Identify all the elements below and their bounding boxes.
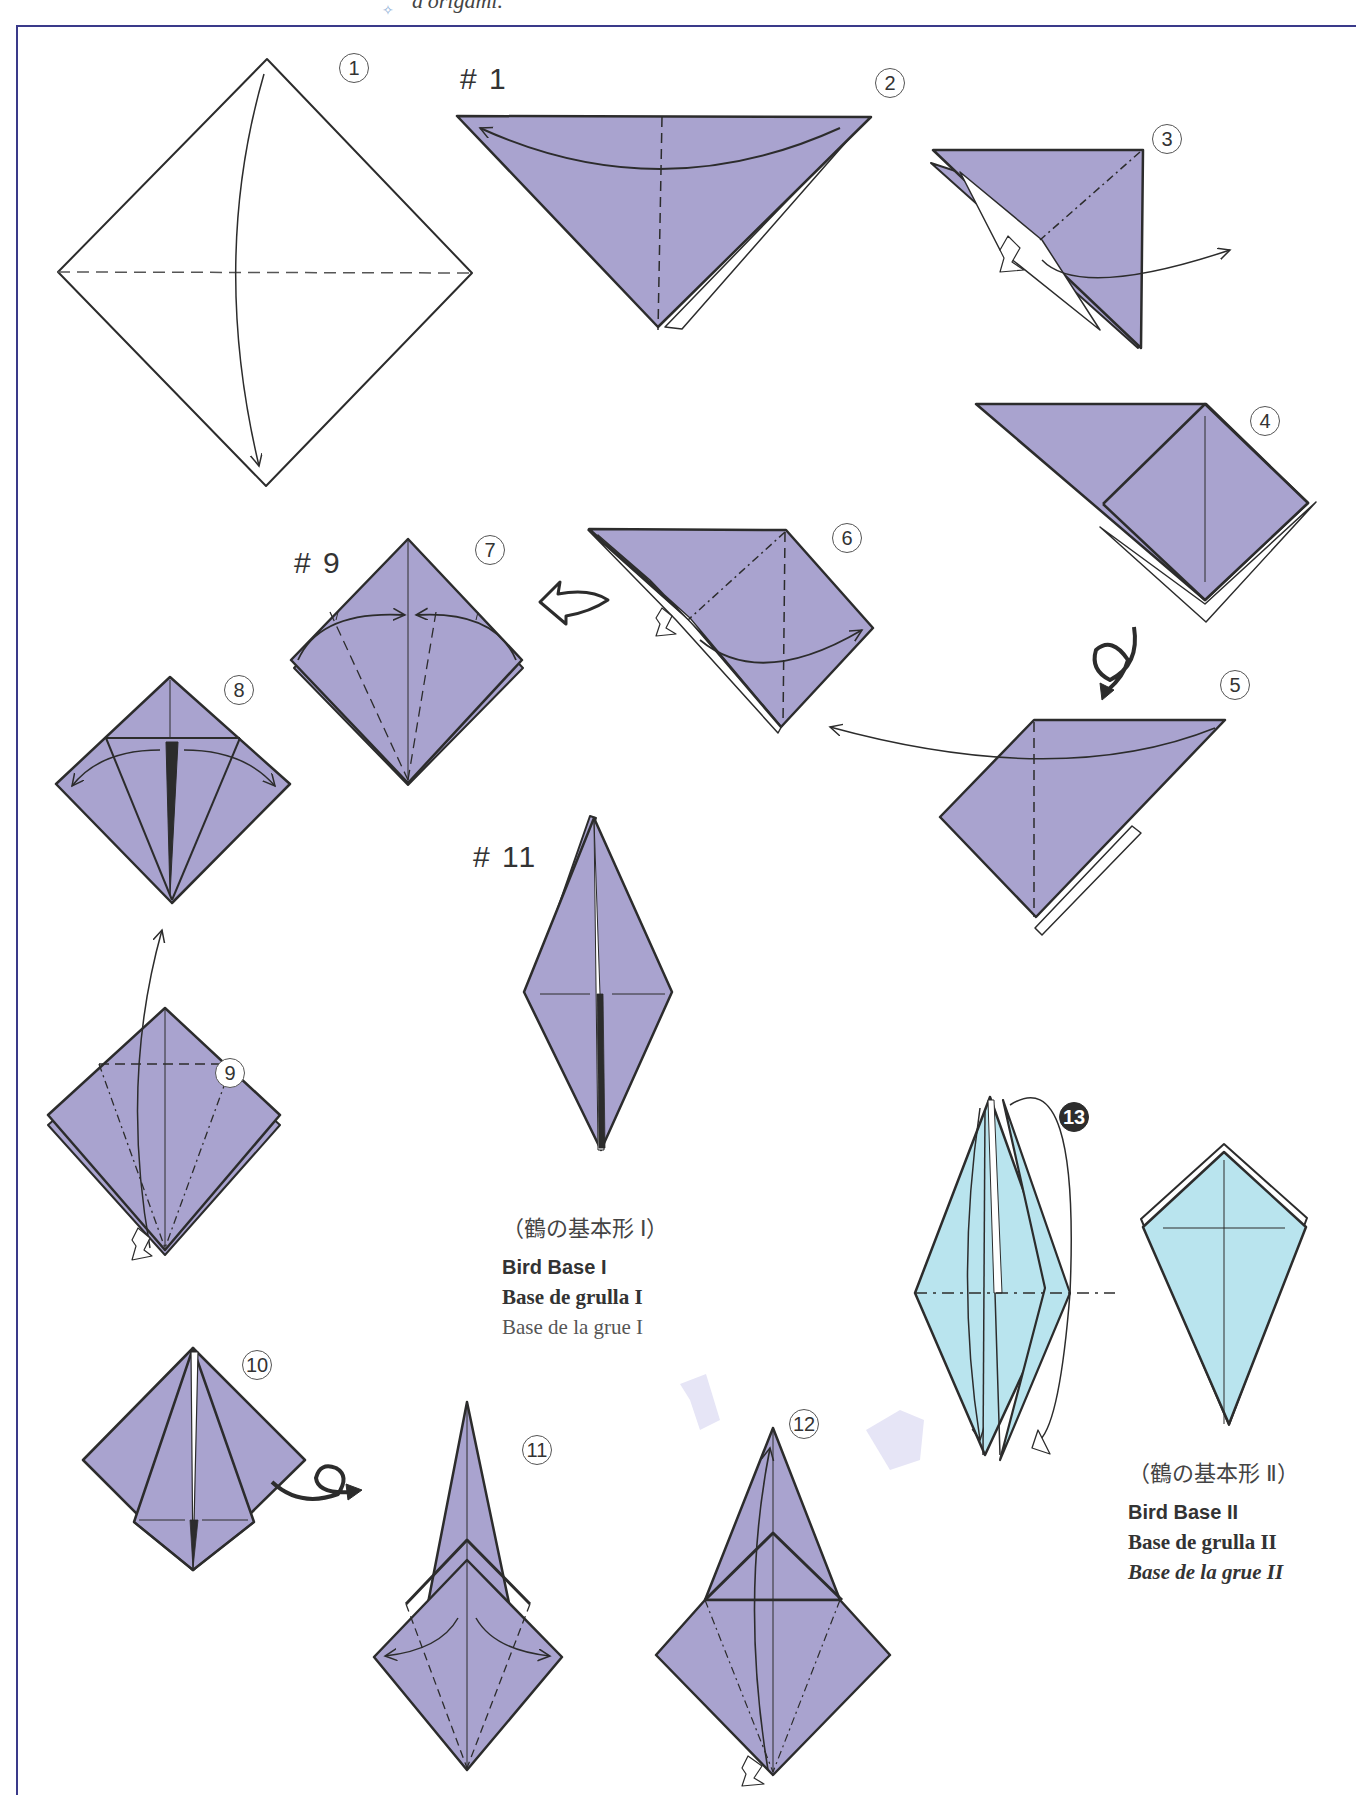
step-number-10: 10: [242, 1350, 272, 1380]
caption-spanish: Base de grulla I: [502, 1282, 668, 1312]
step-number-6: 6: [832, 523, 862, 553]
bird-base-1-caption: （鶴の基本形 Ⅰ） Bird Base I Base de grulla I B…: [502, 1210, 668, 1342]
step-4-diagram: [976, 404, 1316, 622]
step-3-diagram: [931, 150, 1230, 348]
caption-english: Bird Base II: [1128, 1497, 1299, 1527]
step-number-4: 4: [1250, 406, 1280, 436]
flip-over-icon-1: [1095, 627, 1135, 700]
step-number-7: 7: [475, 535, 505, 565]
step-5-diagram: [830, 720, 1225, 935]
caption-japanese: （鶴の基本形 Ⅰ）: [502, 1210, 668, 1242]
step-2-diagram: [457, 116, 871, 330]
bird-base-2-caption: （鶴の基本形 Ⅱ） Bird Base II Base de grulla II…: [1128, 1455, 1299, 1587]
caption-french: Base de la grue II: [1128, 1557, 1299, 1587]
step-number-8: 8: [224, 675, 254, 705]
step-10-diagram: [83, 1348, 305, 1570]
step-number-9: 9: [215, 1058, 245, 1088]
step-6-diagram: [588, 529, 873, 733]
bird-base-1-diagram: [524, 816, 672, 1150]
step-number-12: 12: [789, 1409, 819, 1439]
step-13-diagram: [915, 1097, 1115, 1460]
faded-arrow-left: [680, 1374, 720, 1430]
ref-label-1: # 1: [460, 62, 508, 96]
bird-base-2-diagram: [1141, 1144, 1307, 1425]
step-number-11: 11: [522, 1435, 552, 1465]
step-12-diagram: [656, 1428, 890, 1786]
faded-arrow-right: [866, 1410, 924, 1470]
step-number-3: 3: [1152, 124, 1182, 154]
step-number-13: 13: [1059, 1102, 1089, 1132]
step-8-diagram: [56, 677, 290, 903]
ref-label-11: # 11: [473, 840, 537, 874]
caption-english: Bird Base I: [502, 1252, 668, 1282]
step-number-5: 5: [1220, 670, 1250, 700]
step-number-2: 2: [875, 68, 905, 98]
step-1-diagram: [58, 59, 472, 486]
ref-label-9: # 9: [294, 546, 342, 580]
step-number-1: 1: [339, 53, 369, 83]
step-9-diagram: [48, 930, 280, 1260]
turn-arrow-icon: [540, 582, 608, 624]
caption-french: Base de la grue I: [502, 1312, 668, 1342]
caption-japanese: （鶴の基本形 Ⅱ）: [1128, 1455, 1299, 1487]
caption-spanish: Base de grulla II: [1128, 1527, 1299, 1557]
